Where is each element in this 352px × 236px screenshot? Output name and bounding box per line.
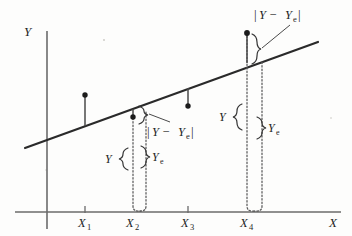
residual-mid-close-bar: | <box>191 124 194 139</box>
tick-label-x1-sub: 1 <box>87 222 91 232</box>
data-point-x4 <box>244 30 250 36</box>
leader-line-residual-mid <box>149 114 170 122</box>
label-ye-x4-base: Y <box>268 121 276 135</box>
label-ye-x4: Y e <box>268 121 280 137</box>
label-y-x4: Y <box>219 110 227 124</box>
brace-residual-x2 <box>139 106 148 124</box>
tick-label-x2: X 2 <box>125 216 139 232</box>
paper-speck <box>103 39 105 41</box>
y-axis-label: Y <box>24 24 33 39</box>
scatter-plot-diagram: Y X X 1 X 2 X 3 X 4 <box>0 0 352 236</box>
tick-label-x4: X 4 <box>239 216 254 232</box>
label-ye-x2-sub: e <box>160 157 164 166</box>
tick-label-x1: X 1 <box>77 216 91 232</box>
label-ye-x4-sub: e <box>276 128 280 137</box>
residual-mid-minus: − <box>162 125 170 139</box>
guide-dotted-x2-expected <box>138 112 146 211</box>
residual-mid-y: Y <box>152 125 161 139</box>
tick-label-x3-base: X <box>180 216 190 230</box>
leader-line-residual-top <box>262 25 290 48</box>
residual-top-minus: − <box>269 8 277 22</box>
brace-y-x4 <box>233 104 242 130</box>
brace-ye-x4 <box>257 117 266 139</box>
guide-dotted-x2-observed <box>133 118 141 211</box>
tick-label-x4-sub: 4 <box>249 222 254 232</box>
tick-label-x2-base: X <box>125 216 135 230</box>
residual-top-close-bar: | <box>298 7 301 22</box>
data-point-x2 <box>130 114 135 119</box>
data-point-x3 <box>185 103 190 108</box>
brace-y-x2 <box>119 148 128 170</box>
data-point-x1 <box>82 92 87 97</box>
brace-residual-x4 <box>252 34 261 64</box>
tick-label-x4-base: X <box>239 216 249 230</box>
residual-mid-ye-sub: e <box>186 131 190 141</box>
label-residual-mid: | Y − Y e | <box>147 124 194 141</box>
residual-top-y: Y <box>259 8 268 22</box>
brace-ye-x2 <box>141 146 150 168</box>
residual-top-ye-sub: e <box>293 14 297 24</box>
label-ye-x2: Y e <box>152 150 164 166</box>
tick-label-x2-sub: 2 <box>135 222 139 232</box>
label-y-x2: Y <box>105 152 113 166</box>
label-ye-x2-base: Y <box>152 150 160 164</box>
guide-dotted-x4-observed <box>247 36 255 211</box>
figure-root: Y X X 1 X 2 X 3 X 4 <box>0 0 352 236</box>
paper-speck <box>330 117 332 119</box>
tick-label-x3: X 3 <box>180 216 194 232</box>
label-residual-top: | Y − Y e | <box>254 7 301 24</box>
tick-label-x1-base: X <box>77 216 87 230</box>
residual-top-open-bar: | <box>254 7 257 22</box>
tick-label-x3-sub: 3 <box>190 222 194 232</box>
residual-mid-open-bar: | <box>147 124 150 139</box>
x-axis-label: X <box>328 215 338 230</box>
